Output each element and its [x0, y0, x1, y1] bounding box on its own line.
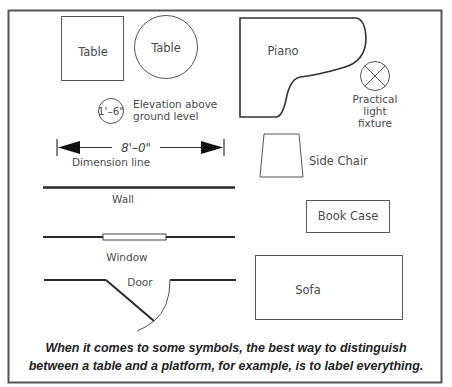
elevation-value: 1'–6": [98, 105, 124, 117]
elevation-label-line2: ground level: [133, 110, 198, 122]
caption-line2: between a table and a platform, for exam…: [29, 359, 424, 373]
square-table-label: Table: [77, 45, 108, 59]
round-table-label: Table: [150, 41, 181, 55]
diagram-frame: [9, 11, 442, 383]
side-chair-label: Side Chair: [309, 154, 368, 168]
floor-plan-symbols-diagram: Table Table Piano Practical light fixtur…: [0, 0, 452, 387]
elevation-label-line1: Elevation above: [133, 98, 217, 110]
book-case-label: Book Case: [318, 209, 378, 223]
light-fixture-label-line1: Practical: [353, 93, 398, 105]
dimension-value: 8'–0": [121, 141, 151, 155]
piano-label: Piano: [267, 44, 298, 58]
sofa-label: Sofa: [295, 283, 320, 297]
window-label: Window: [106, 251, 148, 263]
wall-label: Wall: [112, 193, 134, 205]
door-label: Door: [127, 276, 153, 288]
dimension-line-label: Dimension line: [72, 156, 150, 168]
caption-line1: When it comes to some symbols, the best …: [45, 341, 407, 355]
light-fixture-label-line3: fixture: [358, 117, 392, 129]
light-fixture-label-line2: light: [363, 105, 386, 117]
